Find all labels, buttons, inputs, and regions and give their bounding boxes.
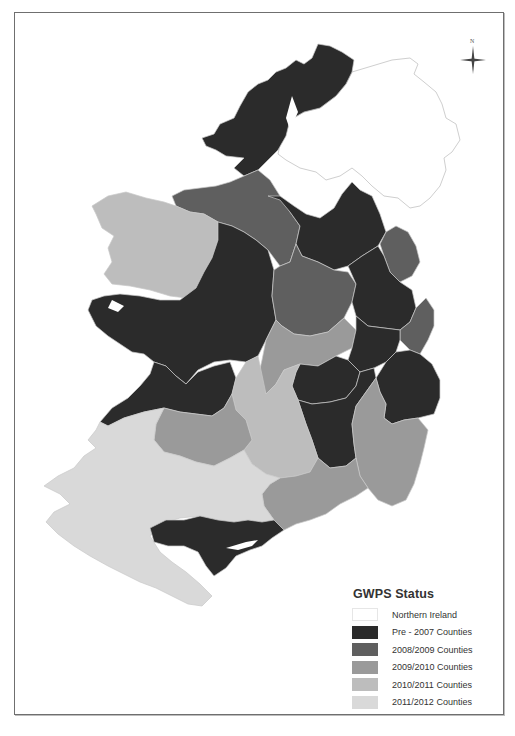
legend-label: Pre - 2007 Counties: [392, 627, 472, 637]
legend-label: Northern Ireland: [392, 610, 457, 620]
swatch-pre-2007: [352, 626, 378, 639]
north-label: N: [470, 38, 474, 44]
swatch-2010-2011: [352, 678, 378, 691]
legend-label: 2008/2009 Counties: [392, 645, 473, 655]
swatch-northern-ireland: [352, 608, 378, 621]
legend-label: 2010/2011 Counties: [392, 680, 472, 690]
legend-item-2009-2010: 2009/2010 Counties: [352, 659, 502, 677]
legend-item-2011-2012: 2011/2012 Counties: [352, 694, 502, 712]
legend-item-pre-2007: Pre - 2007 Counties: [352, 624, 502, 642]
legend: GWPS Status Northern Ireland Pre - 2007 …: [352, 587, 502, 711]
legend-item-2008-2009: 2008/2009 Counties: [352, 641, 502, 659]
swatch-2011-2012: [352, 696, 378, 709]
legend-item-2010-2011: 2010/2011 Counties: [352, 676, 502, 694]
legend-item-northern-ireland: Northern Ireland: [352, 606, 502, 624]
swatch-2009-2010: [352, 661, 378, 674]
legend-title: GWPS Status: [353, 587, 502, 601]
legend-label: 2009/2010 Counties: [392, 662, 473, 672]
swatch-2008-2009: [352, 643, 378, 656]
legend-label: 2011/2012 Counties: [392, 697, 472, 707]
north-arrow-icon: [458, 38, 488, 78]
